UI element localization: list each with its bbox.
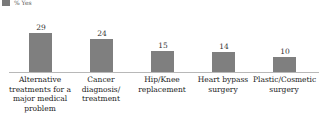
bar-value-label: 14 — [204, 43, 244, 51]
x-axis-baseline — [9, 72, 319, 73]
bar — [273, 57, 296, 72]
bar-value-label: 24 — [82, 30, 122, 38]
bar — [212, 52, 235, 72]
category-label: Cancer diagnosis/ treatment — [70, 75, 132, 104]
category-label: Alternative treatments for a major medic… — [9, 75, 71, 113]
bar-chart: 29 Alternative treatments for a major me… — [0, 0, 321, 121]
category-label: Hip/Knee replacement — [131, 75, 193, 94]
bar-value-label: 15 — [143, 42, 183, 50]
bar-value-label: 29 — [21, 24, 61, 32]
category-label: Plastic/Cosmetic surgery — [253, 75, 315, 94]
bar — [29, 33, 52, 72]
bar — [90, 39, 113, 72]
bar — [151, 51, 174, 72]
category-label: Heart bypass surgery — [192, 75, 254, 94]
bar-value-label: 10 — [265, 48, 305, 56]
